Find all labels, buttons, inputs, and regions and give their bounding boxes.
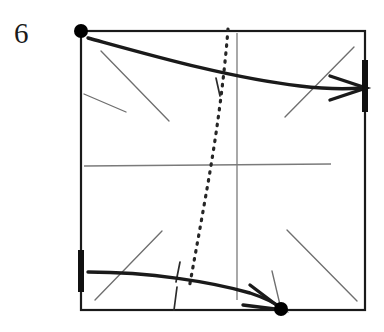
thin-line-br-diagonal	[287, 230, 357, 301]
thin-line-tl-short	[84, 94, 126, 112]
thin-tick-cross-upper-curve	[216, 78, 220, 96]
thin-line-bl-diagonal	[95, 231, 162, 300]
thin-line-tl-long	[101, 51, 169, 121]
thin-horizontal-crease	[84, 164, 331, 166]
crease-tick-marks	[174, 78, 220, 310]
diagram-canvas	[0, 0, 384, 332]
corner-dot-bottom	[274, 302, 288, 316]
figure-container: 6	[0, 0, 384, 332]
corner-dot-top-left	[74, 24, 88, 38]
thin-tick-bottom-edge	[174, 287, 177, 310]
